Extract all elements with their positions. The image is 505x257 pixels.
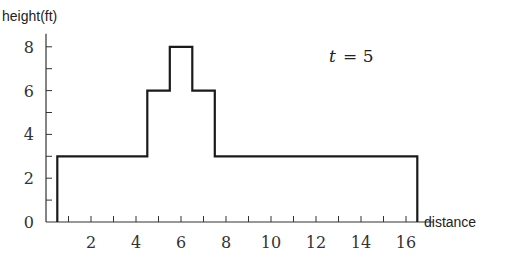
ticks (46, 47, 406, 222)
x-tick-label: 6 (176, 233, 186, 252)
y-tick-label: 4 (24, 125, 34, 144)
x-tick-label: 8 (221, 233, 231, 252)
height-profile-line (57, 47, 417, 222)
x-axis-label: distance (424, 214, 476, 230)
tick-labels: 24681012141602468 (24, 38, 416, 252)
x-tick-label: 14 (351, 233, 371, 252)
y-tick-label: 6 (24, 82, 34, 101)
step-chart: 24681012141602468 height(ft) distance t … (0, 0, 505, 257)
x-tick-label: 4 (131, 233, 141, 252)
x-tick-label: 12 (306, 233, 326, 252)
y-tick-label: 0 (24, 213, 34, 232)
time-annotation: t = 5 (329, 46, 373, 66)
y-tick-label: 8 (24, 38, 34, 57)
y-tick-label: 2 (24, 169, 34, 188)
annotation-variable: t (329, 46, 336, 66)
axes (46, 34, 433, 222)
x-tick-label: 2 (86, 233, 96, 252)
annotation-value: = 5 (343, 46, 373, 66)
x-tick-label: 10 (261, 233, 281, 252)
x-tick-label: 16 (396, 233, 416, 252)
y-axis-label: height(ft) (2, 8, 57, 24)
